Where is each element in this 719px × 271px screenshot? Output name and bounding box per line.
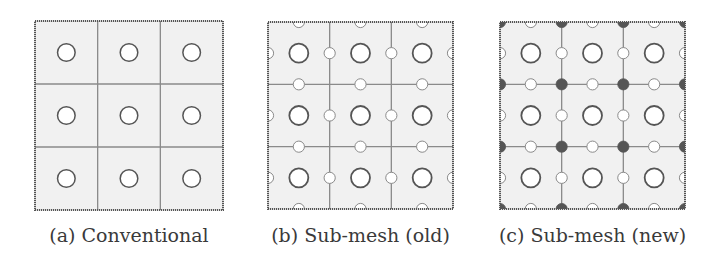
edge-node-icon [293, 141, 304, 152]
edge-node-icon [618, 48, 629, 59]
edge-node-icon [293, 79, 304, 90]
edge-node-icon [556, 110, 567, 121]
cell-node-icon [645, 106, 664, 125]
cell-node-icon [645, 44, 664, 63]
edge-node-icon [417, 79, 428, 90]
edge-node-icon [324, 110, 335, 121]
edge-node-icon [587, 79, 598, 90]
vertex-node-icon [556, 79, 567, 90]
vertex-node-icon [494, 141, 505, 152]
edge-node-icon [386, 48, 397, 59]
cell-node-icon [583, 44, 602, 63]
vertex-node-icon [556, 16, 567, 27]
cell-node-icon [58, 107, 76, 125]
vertex-node-icon [556, 203, 567, 214]
cell-node-icon [351, 44, 370, 63]
cell-node-icon [413, 44, 432, 63]
edge-node-icon [386, 110, 397, 121]
cell-node-icon [521, 106, 540, 125]
edge-node-icon [525, 141, 536, 152]
cell-node-icon [289, 168, 308, 187]
vertex-node-icon [556, 141, 567, 152]
vertex-node-icon [494, 79, 505, 90]
cell-node-icon [583, 106, 602, 125]
panel-submesh-new [494, 16, 690, 214]
edge-node-icon [386, 172, 397, 183]
edge-node-icon [556, 172, 567, 183]
edge-node-icon [618, 110, 629, 121]
edge-node-icon [587, 141, 598, 152]
cell-node-icon [58, 170, 76, 188]
edge-node-icon [618, 172, 629, 183]
vertex-node-icon [679, 79, 690, 90]
cell-node-icon [289, 106, 308, 125]
cell-node-icon [413, 168, 432, 187]
edge-node-icon [324, 48, 335, 59]
cell-node-icon [521, 44, 540, 63]
edge-node-icon [649, 79, 660, 90]
vertex-node-icon [618, 16, 629, 27]
cell-node-icon [183, 44, 201, 62]
cell-node-icon [351, 106, 370, 125]
cell-node-icon [183, 170, 201, 188]
cell-node-icon [120, 107, 138, 125]
vertex-node-icon [618, 141, 629, 152]
cell-node-icon [120, 170, 138, 188]
edge-node-icon [556, 48, 567, 59]
cell-node-icon [351, 168, 370, 187]
vertex-node-icon [679, 141, 690, 152]
edge-node-icon [649, 141, 660, 152]
figure: (a) Conventional (b) Sub-mesh (old) (c) … [0, 0, 719, 271]
cell-node-icon [289, 44, 308, 63]
cell-node-icon [645, 168, 664, 187]
edge-node-icon [525, 79, 536, 90]
cell-node-icon [521, 168, 540, 187]
cell-node-icon [183, 107, 201, 125]
cell-node-icon [58, 44, 76, 62]
edge-node-icon [324, 172, 335, 183]
panel-conventional [35, 21, 223, 210]
panel-submesh-old [262, 16, 458, 214]
cell-node-icon [413, 106, 432, 125]
caption-submesh-new: (c) Sub-mesh (new) [483, 224, 703, 246]
cell-node-icon [120, 44, 138, 62]
caption-submesh-old: (b) Sub-mesh (old) [251, 224, 471, 246]
mesh-nodes [494, 16, 690, 214]
vertex-node-icon [618, 79, 629, 90]
vertex-node-icon [618, 203, 629, 214]
caption-conventional: (a) Conventional [19, 224, 239, 246]
edge-node-icon [355, 79, 366, 90]
mesh-nodes [262, 16, 458, 214]
edge-node-icon [417, 141, 428, 152]
edge-node-icon [355, 141, 366, 152]
cell-node-icon [583, 168, 602, 187]
